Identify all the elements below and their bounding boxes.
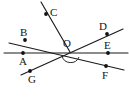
point-dot-e: [106, 51, 110, 55]
label-b: B: [20, 27, 27, 38]
label-f: F: [102, 70, 108, 81]
label-d: D: [99, 21, 107, 32]
point-dot-f: [104, 64, 108, 68]
label-g: G: [28, 74, 36, 85]
label-a: A: [19, 56, 27, 67]
label-c: C: [50, 7, 57, 18]
point-dot-d: [105, 32, 109, 36]
geometry-figure: B A G C D E F O: [0, 0, 129, 99]
point-dot-b: [23, 38, 27, 42]
label-o: O: [63, 38, 71, 49]
point-dot-c: [44, 12, 48, 16]
label-e: E: [104, 40, 111, 51]
